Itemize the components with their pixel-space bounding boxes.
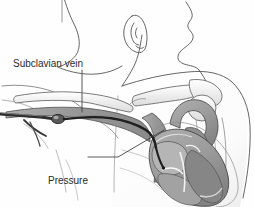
neck-back <box>122 35 142 86</box>
label-subclavian-vein: Subclavian vein <box>13 58 83 70</box>
ear-inner-helix <box>131 23 139 45</box>
head-profile <box>58 0 79 67</box>
catheter-hub-highlight <box>53 116 58 119</box>
catheter-hub <box>52 114 65 123</box>
face-front-profile <box>178 2 199 70</box>
medical-illustration-figure: Subclavian vein Pressure monitor above r… <box>0 0 254 207</box>
catheter-branch-tubing-2 <box>30 122 40 146</box>
label-pressure-monitor: Pressure monitor above right atrium <box>2 152 88 207</box>
label-pressure-monitor-line-1: Pressure <box>2 175 88 187</box>
ear-tragus <box>136 28 138 38</box>
clipped-caption-top <box>38 0 116 3</box>
catheter-tip-marker <box>162 166 165 169</box>
